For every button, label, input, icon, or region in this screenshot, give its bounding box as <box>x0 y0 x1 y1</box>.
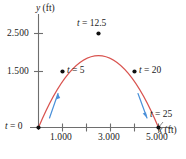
data-point-markers <box>36 31 160 129</box>
annotation-t25-value: = 25 <box>155 109 172 119</box>
annotation-t20-value: = 20 <box>144 65 161 75</box>
marker-t20 <box>132 69 136 73</box>
annotation-t25: t = 25 <box>150 110 172 120</box>
annotation-t20: t = 20 <box>139 66 161 76</box>
annotation-t5-value: = 5 <box>72 65 84 75</box>
projectile-trajectory-figure: y (ft) x (ft) 2.500 1.500 1.000 3.000 5.… <box>0 0 186 159</box>
annotation-t5: t = 5 <box>67 66 85 76</box>
x-tick-label-1000: 1.000 <box>50 133 72 143</box>
velocity-vector-descending <box>138 94 147 119</box>
annotation-t125: t = 12.5 <box>77 19 106 29</box>
marker-t0 <box>36 125 40 129</box>
velocity-vector-ascending <box>50 94 61 119</box>
marker-t125 <box>96 31 100 35</box>
x-tick-label-3000: 3.000 <box>98 133 120 143</box>
x-tick-label-5000: 5.000 <box>146 133 168 143</box>
y-tick-label-2500: 2.500 <box>7 29 29 39</box>
annotation-t0-value: = 0 <box>10 121 22 131</box>
y-axis-unit: (ft) <box>43 3 55 13</box>
marker-t5 <box>60 69 64 73</box>
y-tick-label-1500: 1.500 <box>7 67 29 77</box>
annotation-t0: t = 0 <box>5 122 23 132</box>
annotation-t125-value: = 12.5 <box>82 18 106 28</box>
y-axis-label: y (ft) <box>36 4 55 14</box>
